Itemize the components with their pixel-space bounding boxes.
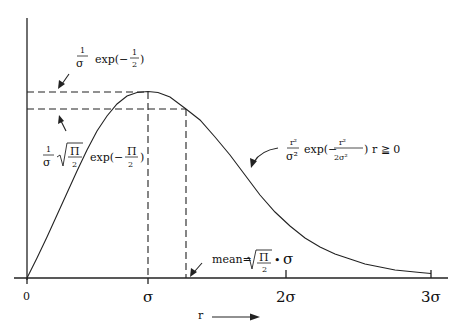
svg-text:1: 1	[132, 48, 137, 57]
tick-label-sigma: σ	[143, 288, 153, 306]
svg-text:2: 2	[128, 160, 133, 169]
svg-text:mean=: mean=	[212, 253, 252, 266]
peak-value-annotation: 1 σ exp(− 1 2 )	[76, 46, 144, 70]
svg-text:Π: Π	[127, 145, 137, 158]
rayleigh-curve	[27, 92, 431, 279]
svg-text:r²: r²	[290, 138, 297, 147]
svg-text:σ: σ	[43, 156, 51, 169]
svg-text:Π: Π	[259, 251, 269, 264]
svg-text:2: 2	[132, 60, 137, 69]
x-axis-arrow-icon	[250, 314, 260, 321]
svg-text:r²: r²	[339, 138, 346, 147]
svg-text:σ: σ	[76, 57, 84, 70]
mean-value-arrow-line	[61, 121, 66, 131]
rayleigh-diagram: 0 σ 2σ 3σ r 1 σ exp(− 1 2 ) 1 σ Π 2 exp(…	[0, 0, 461, 333]
mean-arrow-line	[195, 263, 202, 271]
svg-text:•: •	[274, 254, 281, 267]
mean-value-arrow-icon	[58, 115, 64, 124]
svg-text:2σ²: 2σ²	[334, 153, 348, 162]
pdf-annotation-arrow-line	[254, 148, 278, 162]
x-axis-label: r	[198, 309, 204, 322]
tick-label-0: 0	[23, 290, 30, 303]
svg-text:σ: σ	[283, 250, 293, 268]
mean-formula-annotation: mean= Π 2 • σ	[212, 250, 293, 274]
svg-text:): )	[140, 53, 144, 66]
svg-text:Π: Π	[70, 145, 80, 158]
svg-text:exp(−: exp(−	[304, 143, 337, 156]
svg-text:σ²: σ²	[286, 150, 298, 163]
svg-text:exp(−: exp(−	[95, 53, 128, 66]
svg-text:2: 2	[72, 160, 77, 169]
pdf-formula-annotation: r² σ² exp(− r² 2σ² ) r ≧ 0	[286, 138, 400, 163]
svg-text:r ≧ 0: r ≧ 0	[372, 143, 400, 156]
svg-text:2: 2	[262, 265, 267, 274]
svg-text:1: 1	[46, 145, 51, 154]
svg-text:): )	[140, 151, 144, 164]
tick-label-2sigma: 2σ	[276, 288, 296, 306]
peak-annotation-arrow-line	[62, 74, 69, 84]
tick-label-3sigma: 3σ	[421, 288, 441, 306]
svg-text:): )	[364, 143, 368, 156]
mean-value-annotation: 1 σ Π 2 exp(− Π 2 )	[43, 143, 144, 169]
svg-text:1: 1	[80, 46, 85, 55]
svg-text:exp(−: exp(−	[90, 151, 123, 164]
